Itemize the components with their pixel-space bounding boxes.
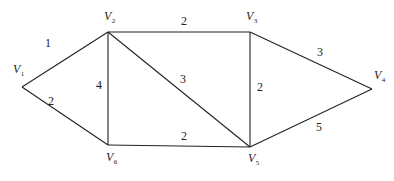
- edge-v5-v4: [250, 89, 372, 147]
- vertex-subscript: 1: [21, 70, 25, 78]
- edge-weight-v2-v5: 3: [180, 72, 186, 86]
- vertex-subscript: 2: [112, 17, 116, 25]
- edge-weight-v3-v4: 3: [317, 45, 323, 59]
- edge-weight-v1-v6: 2: [48, 94, 54, 108]
- vertex-subscript: 3: [254, 17, 258, 25]
- vertex-label-v5: V5: [248, 151, 260, 167]
- vertex-subscript: 4: [382, 76, 386, 84]
- vertex-label-v3: V3: [246, 9, 258, 25]
- graph-diagram: 122432325 V1V2V3V4V5V6: [0, 0, 394, 181]
- edge-weight-v3-v5: 2: [257, 80, 263, 94]
- vertex-label-v1: V1: [13, 62, 25, 78]
- edge-weight-v1-v2: 1: [45, 36, 51, 50]
- edge-weight-v5-v4: 5: [316, 120, 322, 134]
- edge-weights-layer: 122432325: [45, 14, 323, 143]
- vertex-label-v6: V6: [106, 150, 118, 166]
- vertex-subscript: 6: [114, 158, 118, 166]
- vertex-subscript: 5: [256, 159, 260, 167]
- edge-weight-v2-v6: 4: [96, 78, 102, 92]
- vertex-labels-layer: V1V2V3V4V5V6: [13, 9, 386, 167]
- vertex-label-v2: V2: [104, 9, 116, 25]
- edge-v3-v4: [250, 32, 372, 89]
- edge-v1-v6: [22, 87, 108, 145]
- vertex-label-v4: V4: [374, 68, 386, 84]
- edge-v6-v5: [108, 145, 250, 147]
- edge-v2-v5: [108, 32, 250, 147]
- edge-weight-v2-v3: 2: [181, 14, 187, 28]
- edge-weight-v6-v5: 2: [181, 129, 187, 143]
